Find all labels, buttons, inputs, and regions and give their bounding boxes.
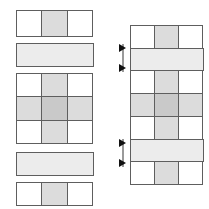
grid-cell	[41, 96, 68, 121]
piece-upper-band	[16, 43, 94, 67]
arrow-right-icon	[119, 139, 126, 147]
piece-top-strip	[16, 10, 94, 37]
grid-cell	[154, 70, 179, 94]
grid-cell	[41, 10, 68, 37]
grid-cell	[130, 161, 155, 185]
grid-cell	[178, 116, 203, 140]
marker-lower	[116, 139, 132, 167]
grid-cell	[41, 73, 68, 97]
grid-cell	[130, 116, 155, 140]
assembled-stack	[130, 25, 204, 191]
grid-cell	[67, 96, 93, 121]
grid-cell	[154, 116, 179, 140]
piece-row	[16, 73, 94, 97]
piece-row	[16, 96, 94, 121]
piece-row	[16, 10, 94, 37]
stack-row-top-strip	[130, 25, 204, 49]
grid-cell	[178, 93, 203, 117]
piece-row	[16, 182, 94, 206]
stack-row-block-1	[130, 70, 204, 94]
grid-cell	[16, 152, 94, 176]
grid-cell	[130, 139, 204, 162]
grid-cell	[41, 182, 68, 206]
grid-cell	[178, 161, 203, 185]
grid-cell	[178, 25, 203, 49]
arrow-right-icon	[119, 44, 126, 52]
grid-cell	[130, 48, 204, 71]
piece-center-block	[16, 73, 94, 145]
stack-row-block-3	[130, 116, 204, 140]
grid-cell	[67, 182, 93, 206]
grid-cell	[154, 93, 179, 117]
grid-cell	[130, 93, 155, 117]
grid-cell	[130, 25, 155, 49]
grid-cell	[178, 70, 203, 94]
marker-upper	[116, 44, 132, 72]
piece-row	[16, 152, 94, 176]
stack-row-lower-band	[130, 139, 204, 162]
diagram-canvas	[0, 0, 209, 209]
arrow-right-icon	[119, 159, 126, 167]
grid-cell	[154, 25, 179, 49]
grid-cell	[16, 73, 42, 97]
piece-row	[16, 43, 94, 67]
grid-cell	[16, 120, 42, 144]
stack-row-bottom-strip	[130, 161, 204, 185]
stack-row-block-2	[130, 93, 204, 117]
arrow-right-icon	[119, 64, 126, 72]
grid-cell	[16, 43, 94, 67]
piece-lower-band	[16, 152, 94, 176]
grid-cell	[67, 120, 93, 144]
grid-cell	[16, 10, 42, 37]
grid-cell	[154, 161, 179, 185]
grid-cell	[16, 182, 42, 206]
grid-cell	[16, 96, 42, 121]
grid-cell	[41, 120, 68, 144]
piece-row	[16, 120, 94, 144]
stack-row-upper-band	[130, 48, 204, 71]
grid-cell	[67, 73, 93, 97]
piece-bottom-strip	[16, 182, 94, 206]
grid-cell	[67, 10, 93, 37]
grid-cell	[130, 70, 155, 94]
